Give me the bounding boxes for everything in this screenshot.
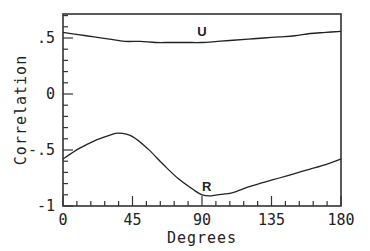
y-axis-title: Correlation (12, 55, 30, 165)
y-tick-label: -.5 (28, 141, 55, 159)
x-axis-title: Degrees (167, 229, 237, 247)
x-tick-label: 90 (193, 211, 211, 229)
x-tick-label: 0 (58, 211, 67, 229)
plot-curves (63, 31, 341, 196)
y-tick-label: -1 (37, 197, 55, 215)
plot-axes: 04590135180-1-.50.5 (28, 14, 355, 229)
plot-labels: UR (197, 24, 212, 195)
series-label-u: U (197, 24, 206, 39)
correlation-chart: 04590135180-1-.50.5 UR Degrees Correlati… (0, 0, 370, 251)
x-tick-label: 135 (258, 211, 285, 229)
x-tick-label: 180 (327, 211, 354, 229)
y-tick-label: 0 (46, 85, 55, 103)
series-label-r: R (202, 179, 212, 194)
y-tick-label: .5 (37, 29, 55, 47)
x-tick-label: 45 (123, 211, 141, 229)
